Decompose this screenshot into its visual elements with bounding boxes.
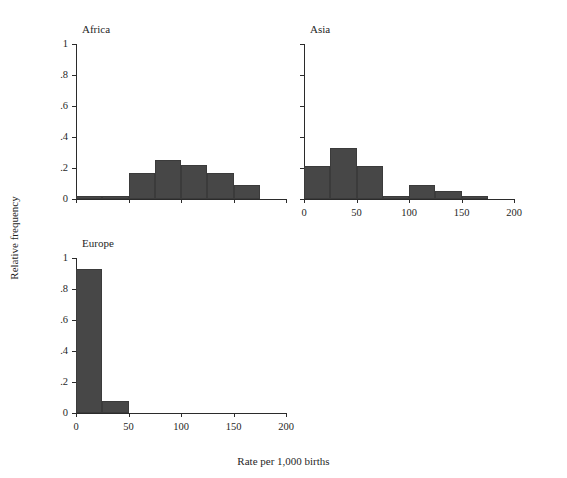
y-tick-label: .2 [42,163,68,174]
x-tick [286,199,287,203]
histogram-bar [155,160,181,199]
y-tick [300,75,304,76]
histogram-bar [76,196,102,199]
histogram-bar [102,401,128,413]
x-tick [181,199,182,203]
x-tick [129,199,130,203]
y-tick-label: .2 [42,377,68,388]
histogram-bar [357,166,383,199]
plot-area-africa: 0.2.4.6.81 [76,44,286,199]
x-tick [514,199,515,203]
y-tick-label: .4 [42,132,68,143]
histogram-bar [409,185,435,199]
y-tick-label: .8 [42,284,68,295]
histogram-bar [383,196,409,199]
x-tick-label: 150 [442,208,482,219]
y-tick [300,106,304,107]
histogram-bar [76,269,102,413]
histogram-bar [102,196,128,199]
y-tick [72,106,76,107]
x-tick [129,413,130,417]
y-axis-line [76,44,77,200]
histogram-bar [181,165,207,199]
histogram-bar [304,166,330,199]
y-tick-label: 0 [42,408,68,419]
y-tick [72,137,76,138]
panel-title-asia: Asia [310,24,330,35]
x-tick [181,413,182,417]
y-tick [72,75,76,76]
y-tick [72,168,76,169]
x-tick-label: 150 [214,422,254,433]
y-tick-label: 0 [42,194,68,205]
x-tick [76,413,77,417]
x-tick-label: 200 [494,208,534,219]
histogram-bar [129,173,155,199]
histogram-bar [330,148,356,199]
x-tick-label: 50 [109,422,149,433]
y-tick [72,258,76,259]
x-tick-label: 100 [389,208,429,219]
y-tick-label: .8 [42,70,68,81]
y-tick [300,137,304,138]
x-tick-label: 100 [161,422,201,433]
x-tick [462,199,463,203]
histogram-figure: Relative frequency Rate per 1,000 births… [0,0,567,478]
y-tick-label: .6 [42,101,68,112]
panel-title-africa: Africa [82,24,110,35]
x-tick-label: 0 [284,208,324,219]
x-tick-label: 50 [337,208,377,219]
y-tick [300,44,304,45]
x-tick [234,413,235,417]
y-axis-title: Relative frequency [7,138,21,338]
y-tick-label: 1 [42,39,68,50]
y-tick-label: .6 [42,315,68,326]
plot-area-asia: 050100150200 [304,44,514,199]
y-tick-label: .4 [42,346,68,357]
x-tick-label: 0 [56,422,96,433]
x-tick [304,199,305,203]
panel-title-europe: Europe [82,238,114,249]
x-axis-title: Rate per 1,000 births [0,455,567,468]
y-tick [72,44,76,45]
histogram-bar [234,185,260,199]
plot-area-europe: 0.2.4.6.81050100150200 [76,258,286,413]
histogram-bar [435,191,461,199]
histogram-bar [462,196,488,199]
histogram-bar [207,173,233,199]
x-tick [286,413,287,417]
x-tick [357,199,358,203]
x-tick [76,199,77,203]
x-tick-label: 200 [266,422,306,433]
x-tick [234,199,235,203]
x-tick [409,199,410,203]
y-tick-label: 1 [42,253,68,264]
